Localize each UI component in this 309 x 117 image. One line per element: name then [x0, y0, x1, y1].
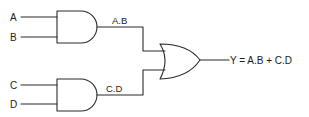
or-gate: [160, 44, 200, 79]
label-cd: C.D: [106, 83, 123, 94]
and-gate-1: [57, 11, 97, 43]
wire-and1-to-or: [97, 27, 165, 51]
logic-circuit-diagram: A B C D A.B C.D Y = A.B + C.D: [0, 0, 309, 117]
and-gate-2: [57, 79, 97, 111]
output-expression: Y = A.B + C.D: [230, 55, 292, 66]
input-label-a: A: [10, 12, 17, 23]
label-ab: A.B: [112, 15, 127, 26]
input-label-c: C: [10, 80, 17, 91]
input-label-b: B: [10, 32, 17, 43]
input-label-d: D: [10, 99, 17, 110]
